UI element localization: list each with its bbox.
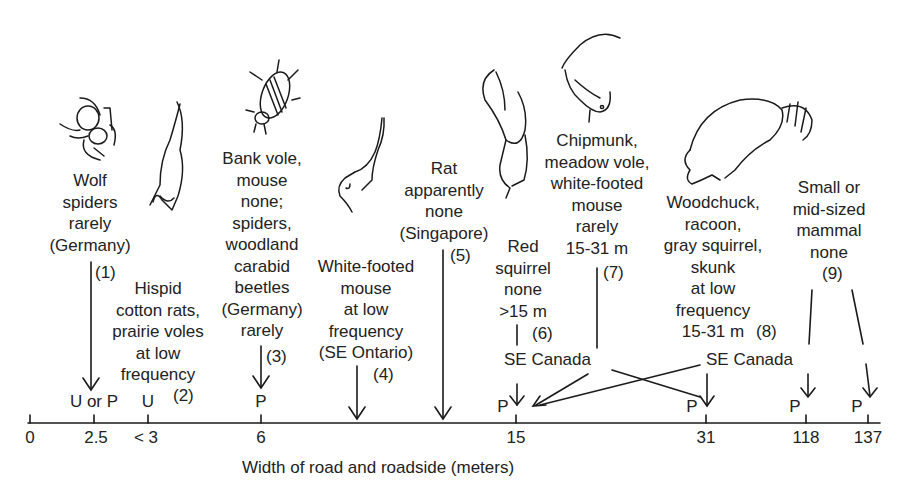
entry-5-number: (5) [450, 246, 471, 266]
mark-31: P [686, 397, 697, 417]
mark-6: P [255, 392, 266, 412]
entry-3-number: (3) [266, 347, 287, 367]
wolf-spider-icon [60, 98, 115, 160]
mark-3: U [142, 392, 154, 412]
arrow-4 [349, 366, 365, 419]
entry-9-number: (9) [822, 264, 843, 284]
chipmunk-icon [562, 34, 620, 122]
raccoon-icon [685, 99, 812, 184]
arrow-se-canada-left-to-15 [533, 374, 588, 406]
tick-label-0: 0 [25, 428, 34, 448]
region-se-canada-right: SE Canada [706, 350, 793, 370]
arrow-8 [700, 374, 714, 406]
entry-4-number: (4) [373, 365, 394, 385]
tick-label-118: 118 [792, 428, 819, 448]
tick-label-2-5: 2.5 [84, 428, 108, 448]
white-footed-mouse-icon [339, 118, 384, 212]
entry-8-number: (8) [756, 322, 777, 342]
tick-label-6: 6 [256, 428, 265, 448]
diagram-lines [0, 0, 912, 490]
entry-1-label: Wolf spiders rarely (Germany) [49, 170, 130, 256]
arrow-9-to-118 [801, 290, 815, 397]
entry-4-label: White-footed mouse at low frequency (SE … [318, 256, 414, 364]
tick-label-15: 15 [507, 428, 526, 448]
tick-label-137: 137 [854, 428, 882, 448]
arrow-se-canada-right-to-15 [540, 365, 700, 405]
x-axis-label: Width of road and roadside (meters) [242, 458, 514, 478]
entry-3-label: Bank vole, mouse none; spiders, woodland… [221, 148, 302, 342]
rat-icon [150, 102, 183, 210]
entry-2-label: Hispid cotton rats, prairie voles at low… [112, 278, 204, 386]
region-se-canada-left: SE Canada [504, 350, 591, 370]
road-width-wildlife-diagram: Wolf spiders rarely (Germany) (1) Hispid… [0, 0, 912, 490]
tick-label-31: 31 [697, 428, 716, 448]
arrow-5 [435, 250, 451, 419]
entry-6-number: (6) [532, 324, 553, 344]
entry-7-label: Chipmunk, meadow vole, white-footed mous… [545, 130, 650, 259]
mark-137: P [851, 397, 862, 417]
mark-118: P [789, 397, 800, 417]
entry-6-label: Red squirrel none >15 m [495, 236, 551, 322]
entry-9-label: Small or mid-sized mammal none [793, 177, 866, 263]
entry-5-label: Rat apparently none (Singapore) [400, 158, 489, 244]
tick-label-3: < 3 [134, 428, 158, 448]
entry-2-number: (2) [173, 386, 194, 406]
red-squirrel-icon [483, 70, 527, 198]
entry-7-number: (7) [603, 263, 624, 283]
carabid-beetle-icon [246, 60, 300, 134]
mark-15: P [497, 397, 508, 417]
arrow-9-to-137 [852, 290, 877, 397]
mark-2-5: U or P [70, 392, 118, 412]
entry-8-label: Woodchuck, racoon, gray squirrel, skunk … [664, 192, 762, 343]
